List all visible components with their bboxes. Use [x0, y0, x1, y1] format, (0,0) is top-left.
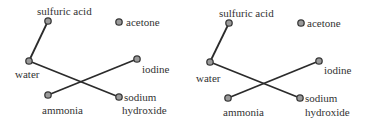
- label-sodium-hydroxide: sodium: [124, 91, 157, 103]
- node-ammonia: [45, 92, 51, 98]
- label-iodine: iodine: [324, 64, 352, 76]
- network-diagram-2: sulfuric acidacetonewateriodineammoniaso…: [196, 7, 352, 118]
- label-acetone: acetone: [126, 16, 160, 28]
- node-iodine: [134, 56, 140, 62]
- node-iodine: [316, 58, 322, 64]
- label-sodium-hydroxide-line2: hydroxide: [305, 106, 350, 118]
- node-ammonia: [225, 95, 231, 101]
- node-water: [26, 58, 32, 64]
- edge-water-sodium-hydroxide: [210, 62, 300, 98]
- node-sodium-hydroxide: [116, 94, 122, 100]
- label-ammonia: ammonia: [223, 106, 264, 118]
- node-sulfuric-acid: [45, 18, 51, 24]
- node-water: [207, 59, 213, 65]
- label-acetone: acetone: [307, 17, 341, 29]
- label-sodium-hydroxide-line2: hydroxide: [122, 104, 167, 116]
- node-acetone: [116, 19, 122, 25]
- label-water: water: [15, 68, 40, 80]
- label-ammonia: ammonia: [42, 104, 83, 116]
- label-sulfuric-acid: sulfuric acid: [219, 7, 274, 19]
- edge-sulfuric-acid-water: [210, 23, 229, 62]
- node-acetone: [298, 20, 304, 26]
- label-iodine: iodine: [142, 63, 170, 75]
- edge-water-sodium-hydroxide: [29, 61, 119, 97]
- edge-sulfuric-acid-water: [29, 21, 48, 61]
- label-sodium-hydroxide: sodium: [305, 92, 338, 104]
- label-water: water: [196, 72, 221, 84]
- diagram-canvas: sulfuric acidacetonewateriodineammoniaso…: [0, 0, 367, 123]
- node-sodium-hydroxide: [297, 95, 303, 101]
- edge-ammonia-iodine: [48, 59, 137, 95]
- node-sulfuric-acid: [226, 20, 232, 26]
- label-sulfuric-acid: sulfuric acid: [37, 5, 92, 17]
- network-diagram-1: sulfuric acidacetonewateriodineammoniaso…: [15, 5, 170, 116]
